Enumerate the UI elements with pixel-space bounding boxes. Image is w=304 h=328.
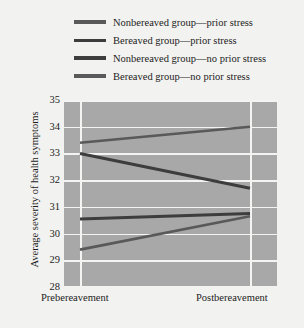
legend-item-label: Bereaved group—no prior stress [113, 71, 250, 82]
legend-item-label: Bereaved group—prior stress [113, 35, 237, 46]
legend-line-swatch-icon [74, 74, 106, 78]
series-line [80, 216, 250, 249]
y-tick-label: 30 [30, 229, 60, 239]
legend-line-swatch-icon [74, 56, 106, 60]
chart-legend: Nonbereaved group—prior stress Bereaved … [0, 14, 304, 86]
series-line [80, 214, 250, 219]
plot-area [64, 100, 277, 287]
legend-item-label: Nonbereaved group—prior stress [113, 17, 253, 28]
y-axis-ticks: 35 34 33 32 31 30 29 28 [26, 100, 60, 287]
y-tick-label: 34 [30, 122, 60, 132]
series-line [80, 153, 250, 188]
chart-figure: Nonbereaved group—prior stress Bereaved … [0, 0, 304, 328]
legend-item-label: Nonbereaved group—no prior stress [113, 53, 266, 64]
legend-item-bereaved-prior-stress: Bereaved group—prior stress [74, 32, 237, 48]
y-tick-label: 31 [30, 202, 60, 212]
legend-item-nonbereaved-no-prior-stress: Nonbereaved group—no prior stress [74, 50, 266, 66]
legend-line-swatch-icon [74, 20, 106, 24]
y-tick-label: 33 [30, 148, 60, 158]
x-tick-label-prebereavement: Prebereavement [41, 292, 109, 303]
legend-item-bereaved-no-prior-stress: Bereaved group—no prior stress [74, 68, 250, 84]
legend-item-nonbereaved-prior-stress: Nonbereaved group—prior stress [74, 14, 253, 30]
y-tick-label: 28 [30, 282, 60, 292]
y-tick-label: 35 [30, 95, 60, 105]
series-line [80, 127, 250, 143]
data-lines [64, 100, 277, 287]
y-tick-label: 29 [30, 255, 60, 265]
legend-line-swatch-icon [74, 39, 106, 42]
x-tick-label-postbereavement: Postbereavement [196, 292, 268, 303]
y-tick-label: 32 [30, 175, 60, 185]
